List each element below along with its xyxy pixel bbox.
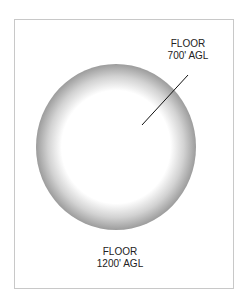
lower-floor-label-line2: 1200' AGL: [85, 258, 155, 270]
upper-floor-label-line1: FLOOR: [158, 38, 218, 50]
lower-floor-label-line1: FLOOR: [85, 246, 155, 258]
airspace-circle: [36, 64, 196, 230]
upper-floor-label: FLOOR 700' AGL: [158, 38, 218, 62]
lower-floor-label: FLOOR 1200' AGL: [85, 246, 155, 270]
upper-floor-label-line2: 700' AGL: [158, 50, 218, 62]
